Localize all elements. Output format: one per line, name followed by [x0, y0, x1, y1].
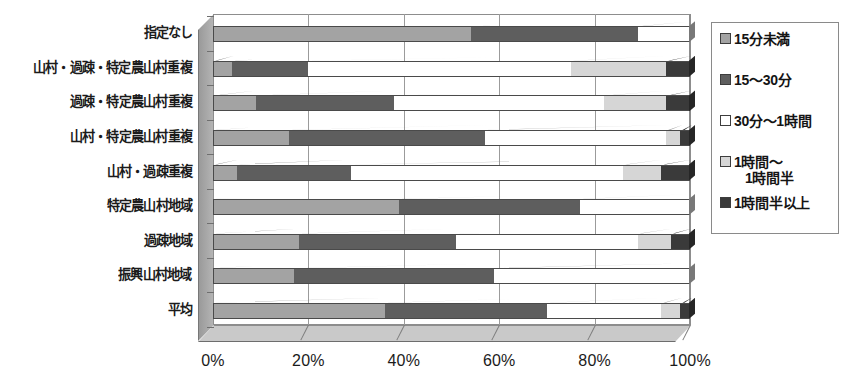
bar-end-cap [689, 90, 695, 111]
bar-segment [471, 26, 638, 42]
bar-segment [213, 130, 289, 146]
x-axis-label-40: 40% [387, 352, 420, 370]
bar-end-cap [689, 194, 695, 215]
y-axis-label-1: 山村・過疎・特定農山村重複 [33, 61, 192, 75]
bar-row [198, 125, 698, 146]
legend: 15分未満15～30分30分～1時間1時間～1時間半1時間半以上 [711, 22, 839, 234]
legend-swatch-icon [720, 74, 731, 85]
bar-end-cap [689, 298, 695, 319]
bar-end-cap [689, 160, 695, 181]
bar-row [198, 298, 698, 319]
bar-segment [308, 61, 570, 77]
legend-swatch-icon [720, 33, 731, 44]
y-tick-4 [207, 154, 214, 155]
y-tick-3 [207, 120, 214, 121]
bar-segment [213, 165, 237, 181]
legend-item-1[interactable]: 15～30分 [720, 72, 791, 88]
bar-segment [294, 268, 494, 284]
bar-segment [399, 199, 580, 215]
y-tick-0 [207, 16, 214, 17]
bar-end-cap [689, 125, 695, 146]
bar-segment [385, 303, 547, 319]
bar-segment [623, 165, 661, 181]
bar-segment [680, 303, 690, 319]
bar-segment [213, 303, 385, 319]
bar-row [198, 263, 698, 284]
y-tick-6 [207, 223, 214, 224]
legend-swatch-icon [720, 197, 731, 208]
bar-segment [289, 130, 485, 146]
bar-end-cap [689, 56, 695, 77]
y-tick-5 [207, 189, 214, 190]
bar-segment [571, 61, 666, 77]
y-axis-label-5: 特定農山村地域 [106, 199, 192, 213]
y-tick-1 [207, 51, 214, 52]
legend-item-3[interactable]: 1時間～1時間半 [720, 154, 794, 186]
bar-segment [213, 268, 294, 284]
bar-row [198, 229, 698, 250]
y-axis-category-labels: 指定なし山村・過疎・特定農山村重複過疎・特定農山村重複山村・特定農山村重複山村・… [0, 14, 196, 344]
bar-segment [666, 61, 690, 77]
y-axis-label-3: 山村・特定農山村重複 [70, 130, 192, 144]
bar-end-cap [689, 21, 695, 42]
y-axis-label-4: 山村・過疎重複 [106, 165, 192, 179]
bars-layer [198, 14, 698, 357]
y-axis-label-6: 過疎地域 [143, 234, 192, 248]
bar-segment [666, 130, 680, 146]
bar-segment [638, 234, 671, 250]
bar-segment [680, 130, 690, 146]
bar-segment [666, 95, 690, 111]
x-axis-label-60: 60% [483, 352, 516, 370]
y-tick-7 [207, 258, 214, 259]
bar-end-cap [689, 263, 695, 284]
bar-segment [232, 61, 308, 77]
bar-segment [351, 165, 623, 181]
x-axis-label-100: 100% [669, 352, 711, 370]
bar-segment [638, 26, 690, 42]
legend-label: 30分～1時間 [734, 113, 811, 129]
bar-segment [494, 268, 690, 284]
bar-segment [604, 95, 666, 111]
bar-end-cap [689, 229, 695, 250]
legend-label-line2: 1時間半 [734, 170, 794, 186]
y-axis-label-0: 指定なし [143, 26, 192, 40]
bar-segment [661, 303, 680, 319]
bar-segment [237, 165, 351, 181]
legend-swatch-icon [720, 115, 731, 126]
bar-row [198, 56, 698, 77]
plot-area [198, 14, 698, 357]
bar-segment [299, 234, 456, 250]
y-axis-label-2: 過疎・特定農山村重複 [70, 95, 192, 109]
bar-row [198, 160, 698, 181]
bar-segment [547, 303, 661, 319]
legend-item-2[interactable]: 30分～1時間 [720, 113, 811, 129]
legend-item-0[interactable]: 15分未満 [720, 31, 790, 47]
chart-figure: 指定なし山村・過疎・特定農山村重複過疎・特定農山村重複山村・特定農山村重複山村・… [0, 0, 853, 391]
y-axis-label-8: 平均 [168, 303, 192, 317]
x-axis-label-20: 20% [292, 352, 325, 370]
y-tick-9 [207, 327, 214, 328]
y-tick-2 [207, 85, 214, 86]
bar-row [198, 21, 698, 42]
x-axis-label-0: 0% [201, 352, 225, 370]
bar-segment [580, 199, 690, 215]
bar-segment [213, 234, 299, 250]
bar-segment [671, 234, 690, 250]
legend-label: 1時間～1時間半 [734, 154, 794, 186]
bar-segment [213, 26, 471, 42]
bar-segment [485, 130, 666, 146]
legend-label: 1時間半以上 [734, 195, 810, 211]
legend-label: 15～30分 [734, 72, 791, 88]
bar-row [198, 194, 698, 215]
legend-item-4[interactable]: 1時間半以上 [720, 195, 810, 211]
legend-label: 15分未満 [734, 31, 790, 47]
bar-segment [213, 95, 256, 111]
bar-segment [456, 234, 637, 250]
legend-swatch-icon [720, 156, 731, 167]
bar-segment [213, 61, 232, 77]
bar-segment [256, 95, 394, 111]
bar-segment [213, 199, 399, 215]
y-axis-label-7: 振興山村地域 [119, 268, 192, 282]
bar-segment [661, 165, 690, 181]
x-axis-tick-labels: 0%20%40%60%80%100% [198, 352, 718, 376]
